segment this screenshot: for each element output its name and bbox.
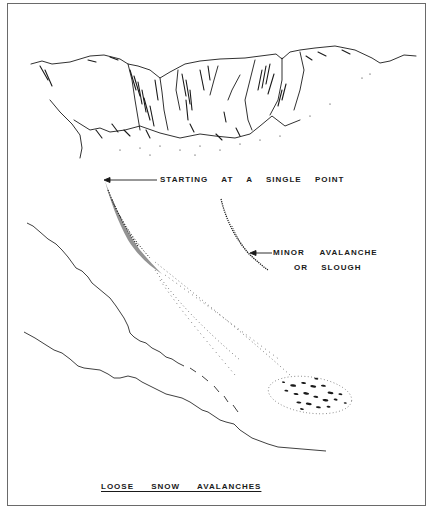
label-minor-avalanche: MINOR AVALANCHE bbox=[273, 248, 378, 257]
diagram-illustration bbox=[0, 0, 435, 514]
main-avalanche-path bbox=[105, 181, 290, 375]
ridge-hatching bbox=[40, 50, 350, 140]
slope-lines bbox=[24, 223, 326, 451]
ridge-stipple bbox=[119, 73, 370, 155]
arrow-head-icon bbox=[104, 178, 110, 183]
label-starting-point: STARTING AT A SINGLE POINT bbox=[160, 175, 344, 184]
diagram-title: LOOSE SNOW AVALANCHES bbox=[101, 482, 261, 491]
mountain-ridge bbox=[31, 46, 416, 158]
debris-deposit bbox=[266, 371, 354, 418]
minor-slough-path bbox=[221, 199, 268, 270]
label-arrows bbox=[104, 178, 272, 256]
label-or-slough: OR SLOUGH bbox=[294, 263, 361, 272]
